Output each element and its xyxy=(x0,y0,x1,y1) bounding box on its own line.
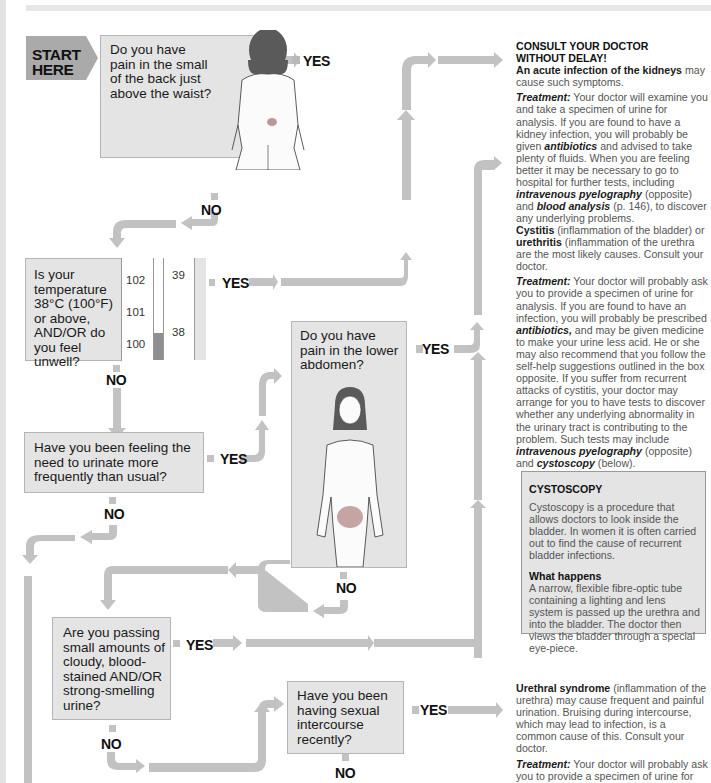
q5-no-label: NO xyxy=(101,736,121,752)
cystitis-treatment-label: Treatment: xyxy=(516,275,571,287)
q3-no-label: NO xyxy=(336,580,356,596)
cystoscopy-subhead: What happens xyxy=(529,570,701,582)
start-line-1: START xyxy=(32,47,81,62)
q2-no-label: NO xyxy=(106,372,126,388)
kidney-heading-1: CONSULT YOUR DOCTOR xyxy=(516,40,708,52)
urethral-term: Urethral syndrome xyxy=(516,682,610,694)
cystitis-term-cystoscopy: cystoscopy xyxy=(537,457,595,469)
tick-39c: 39 xyxy=(172,269,185,281)
outcome-urethral-syndrome: Urethral syndrome (inflammation of the u… xyxy=(516,682,708,783)
front-figure-illustration xyxy=(305,385,395,567)
cystitis-treatment-text: (below). xyxy=(595,457,636,469)
question-text: Are you passing small amounts of cloudy,… xyxy=(63,626,168,713)
cystoscopy-body: A narrow, flexible fibre-optic tube cont… xyxy=(529,582,701,655)
question-text: Do you have pain in the lower abdomen? xyxy=(300,329,404,373)
outcome-cystitis: Cystitis (inflammation of the bladder) o… xyxy=(516,224,708,472)
outcome-kidney-infection: CONSULT YOUR DOCTOR WITHOUT DELAY! An ac… xyxy=(516,40,708,227)
cystitis-term: Cystitis xyxy=(516,224,554,236)
q6-yes-label: YES xyxy=(420,702,447,718)
question-text: Have you been having sexual intercourse … xyxy=(297,689,402,747)
cystoscopy-intro: Cystoscopy is a procedure that allows do… xyxy=(529,501,701,561)
start-line-2: HERE xyxy=(32,62,81,77)
thermometer-side xyxy=(194,258,206,360)
tick-100f: 100 xyxy=(126,338,145,350)
q2-yes-label: YES xyxy=(222,275,249,291)
cystoscopy-title: CYSTOSCOPY xyxy=(529,483,701,495)
q6-no-label: NO xyxy=(335,765,355,781)
kidney-term-antibiotics: antibiotics xyxy=(544,140,597,152)
question-frequent-urination: Have you been feeling the need to urinat… xyxy=(24,432,204,493)
urethritis-term: urethritis xyxy=(516,236,562,248)
question-cloudy-urine: Are you passing small amounts of cloudy,… xyxy=(52,617,171,720)
tick-102f: 102 xyxy=(126,274,145,286)
q1-yes-label: YES xyxy=(303,53,330,69)
question-sexual-intercourse: Have you been having sexual intercourse … xyxy=(287,681,404,754)
thermometer-scale: 102 101 100 39 38 xyxy=(121,258,206,361)
tick-101f: 101 xyxy=(126,306,145,318)
cystoscopy-info-box: CYSTOSCOPY Cystoscopy is a procedure tha… xyxy=(521,471,706,634)
question-text: Is your temperature 38°C (100°F) or abov… xyxy=(34,268,126,370)
urethral-treatment-label: Treatment: xyxy=(516,758,571,770)
q5-yes-label: YES xyxy=(186,637,213,653)
kidney-term-ivp: intravenous pyelography xyxy=(516,188,642,200)
tick-38c: 38 xyxy=(172,326,185,338)
cystitis-text: (inflammation of the bladder) or xyxy=(554,224,704,236)
kidney-term-blood: blood analysis xyxy=(537,200,611,212)
q3-yes-label: YES xyxy=(422,341,449,357)
q4-no-label: NO xyxy=(104,506,124,522)
start-here-label: START HERE xyxy=(32,47,81,77)
q4-yes-label: YES xyxy=(220,451,247,467)
cystitis-term-antibiotics: antibiotics, xyxy=(516,324,572,336)
q1-yes-marker xyxy=(292,56,300,64)
thermometer-mercury xyxy=(154,333,163,360)
kidney-cause: An acute infection of the kidneys xyxy=(516,64,682,76)
back-figure-illustration xyxy=(228,30,308,170)
q1-no-label: NO xyxy=(201,202,221,218)
cystitis-term-ivp: intravenous pyelography xyxy=(516,445,642,457)
cystitis-treatment-text: and may be given medicine to make your u… xyxy=(516,324,706,445)
kidney-treatment-label: Treatment: xyxy=(516,91,571,103)
question-text: Have you been feeling the need to urinat… xyxy=(34,441,199,485)
kidney-heading-2: WITHOUT DELAY! xyxy=(516,52,708,64)
question-text: Do you have pain in the small of the bac… xyxy=(110,43,215,101)
